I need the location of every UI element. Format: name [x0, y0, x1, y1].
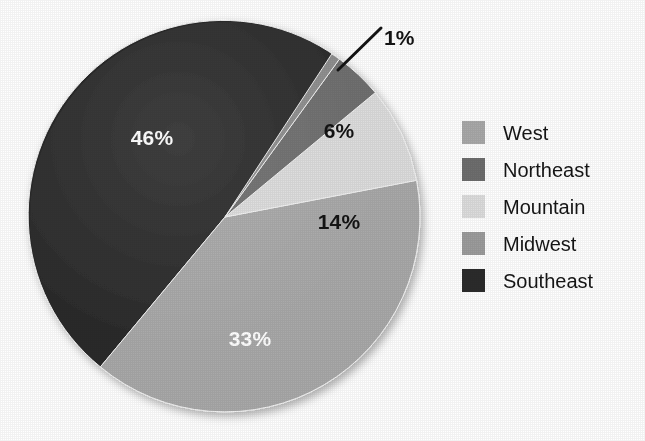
legend-item-southeast[interactable]: Southeast: [462, 262, 642, 299]
legend-swatch-northeast: [462, 158, 485, 181]
legend-item-west[interactable]: West: [462, 114, 642, 151]
pie-slices-group: [28, 20, 420, 412]
midwest-callout-leader-line: [338, 28, 381, 70]
legend-label-northeast: Northeast: [503, 160, 590, 180]
chart-legend: West Northeast Mountain Midwest Southeas…: [462, 114, 642, 299]
legend-label-west: West: [503, 123, 548, 143]
pie-plot-area: 46% 33% 14% 6% 1%: [0, 0, 450, 441]
legend-label-mountain: Mountain: [503, 197, 585, 217]
pie-svg: [0, 0, 450, 441]
legend-label-midwest: Midwest: [503, 234, 576, 254]
slice-label-midwest: 1%: [384, 26, 414, 50]
pie-chart-figure: 46% 33% 14% 6% 1% West Northeast Mountai…: [0, 0, 645, 441]
legend-item-mountain[interactable]: Mountain: [462, 188, 642, 225]
legend-item-midwest[interactable]: Midwest: [462, 225, 642, 262]
legend-swatch-midwest: [462, 232, 485, 255]
legend-swatch-mountain: [462, 195, 485, 218]
legend-swatch-west: [462, 121, 485, 144]
legend-item-northeast[interactable]: Northeast: [462, 151, 642, 188]
legend-swatch-southeast: [462, 269, 485, 292]
pie-sheen-overlay: [30, 22, 420, 412]
legend-label-southeast: Southeast: [503, 271, 593, 291]
